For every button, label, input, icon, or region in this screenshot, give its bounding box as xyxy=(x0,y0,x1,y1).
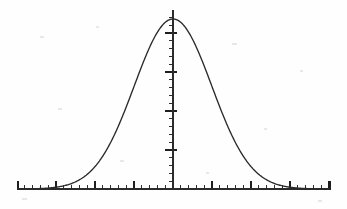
paper-speckles xyxy=(22,26,322,202)
chart-canvas xyxy=(0,0,347,209)
y-axis-tick-group xyxy=(165,17,177,181)
bell-curve-figure xyxy=(0,0,347,209)
